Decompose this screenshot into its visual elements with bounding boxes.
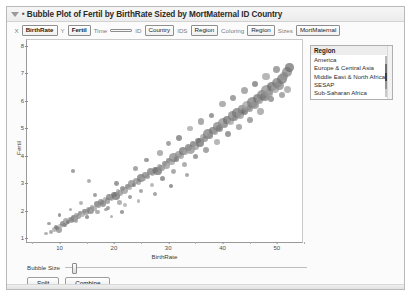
bubble-point[interactable]	[87, 179, 91, 183]
bubble-point[interactable]	[63, 223, 67, 227]
x-minor-tick	[195, 242, 196, 244]
bubble-point[interactable]	[182, 162, 188, 168]
bubble-point[interactable]	[47, 222, 51, 226]
y-tick-label: 8	[21, 43, 27, 49]
role-value-id[interactable]: Country	[145, 25, 175, 36]
bubble-point[interactable]	[262, 73, 270, 81]
legend-item[interactable]: Middle East & North Africa	[314, 73, 389, 81]
legend-panel[interactable]: Region AmericaEurope & Central AsiaMiddl…	[310, 45, 393, 100]
bubble-point[interactable]	[150, 183, 154, 187]
bubble-point[interactable]	[171, 169, 176, 174]
role-value-y[interactable]: Fertil	[68, 25, 91, 36]
x-tick-label: 10	[56, 242, 63, 251]
bubble-point[interactable]	[257, 108, 264, 115]
role-value-time[interactable]	[110, 29, 132, 32]
bubble-point[interactable]	[209, 113, 215, 119]
bubble-point[interactable]	[110, 215, 113, 218]
bubble-point[interactable]	[128, 195, 132, 199]
role-tag-coloring: Coloring	[221, 27, 244, 34]
bubble-point[interactable]	[166, 141, 171, 146]
role-tag-x: X	[15, 27, 19, 34]
legend-item[interactable]: SESAP	[314, 81, 389, 89]
bubble-point[interactable]	[133, 166, 138, 171]
scatter-plot-area[interactable]: 12345678 1020304050	[26, 39, 303, 243]
legend-item[interactable]: Europe & Central Asia	[314, 64, 389, 72]
bubble-size-control[interactable]: Bubble Size	[27, 264, 307, 271]
role-value-coloring[interactable]: Region	[247, 25, 275, 36]
bubble-point[interactable]	[214, 139, 220, 145]
legend-scrollbar[interactable]	[387, 46, 392, 99]
bubble-point[interactable]	[74, 219, 78, 223]
bubble-point[interactable]	[95, 210, 99, 214]
bubble-point[interactable]	[285, 63, 293, 71]
x-minor-tick	[87, 242, 88, 244]
bubble-plot-window: ▪ Bubble Plot of Fertil by BirthRate Siz…	[6, 6, 405, 290]
bubble-point[interactable]	[279, 92, 285, 98]
x-tick-label: 50	[273, 242, 280, 251]
role-value-x[interactable]: BirthRate	[22, 25, 58, 36]
bubble-point[interactable]	[225, 131, 231, 137]
bubble-point[interactable]	[193, 154, 198, 159]
bubble-size-slider-thumb[interactable]	[72, 263, 77, 274]
x-tick-label: 40	[219, 242, 226, 251]
bubble-point[interactable]	[79, 201, 83, 205]
x-axis-label: BirthRate	[26, 253, 303, 260]
y-tick-label: 5	[21, 125, 27, 131]
bubble-size-slider[interactable]	[65, 267, 307, 268]
role-tag-ids: IDS	[177, 27, 187, 34]
bubble-point[interactable]	[69, 208, 73, 212]
role-value-sizes[interactable]: MortMaternal	[296, 25, 340, 36]
bubble-point[interactable]	[137, 199, 141, 203]
bubble-point[interactable]	[203, 147, 209, 153]
bubble-point[interactable]	[230, 95, 236, 101]
bubble-point[interactable]	[252, 81, 258, 87]
bubble-point[interactable]	[58, 213, 61, 216]
y-tick-label: 4	[21, 153, 27, 159]
bubble-point[interactable]	[114, 181, 119, 186]
bubble-point[interactable]	[219, 101, 226, 108]
bubble-point[interactable]	[198, 118, 204, 124]
bubble-point[interactable]	[157, 150, 163, 156]
x-minor-tick	[141, 242, 142, 244]
bubble-point[interactable]	[55, 226, 59, 230]
y-tick-label: 6	[21, 98, 27, 104]
bubble-point[interactable]	[236, 124, 242, 130]
page-title: Bubble Plot of Fertil by BirthRate Sized…	[27, 10, 282, 19]
bubble-point[interactable]	[241, 87, 248, 94]
bubble-point[interactable]	[185, 173, 189, 177]
bubble-point[interactable]	[176, 135, 182, 141]
bubble-point[interactable]	[284, 86, 291, 93]
bubble-point[interactable]	[117, 200, 121, 204]
bubble-point[interactable]	[44, 232, 47, 235]
role-tag-id: ID	[135, 27, 141, 34]
bubble-point[interactable]	[104, 208, 108, 212]
bubble-point[interactable]	[160, 176, 165, 181]
window-titlebar: ▪ Bubble Plot of Fertil by BirthRate Siz…	[7, 7, 404, 22]
bubble-point[interactable]	[268, 96, 274, 102]
legend-item[interactable]: Sub-Saharan Africa	[314, 89, 389, 97]
title-bullet-icon: ▪	[22, 10, 25, 18]
bubble-point[interactable]	[169, 184, 173, 188]
bubble-point[interactable]	[187, 126, 192, 131]
bubble-point[interactable]	[153, 192, 157, 196]
role-value-ids[interactable]: Region	[191, 25, 219, 36]
y-tick-label: 1	[21, 235, 27, 241]
bubble-point[interactable]	[144, 158, 148, 162]
x-minor-tick	[250, 242, 251, 244]
bubble-point[interactable]	[120, 210, 124, 214]
bubble-point[interactable]	[273, 66, 280, 73]
x-minor-tick	[304, 242, 305, 244]
bubble-point[interactable]	[247, 117, 253, 123]
bubble-canvas	[27, 40, 302, 242]
x-tick-label: 30	[165, 242, 172, 251]
bubble-point[interactable]	[85, 215, 89, 219]
triangle-down-icon[interactable]	[11, 12, 19, 17]
window-bottom-edge	[7, 284, 404, 289]
y-tick-label: 2	[21, 208, 27, 214]
bubble-point[interactable]	[139, 189, 144, 194]
legend-item[interactable]: America	[314, 56, 389, 64]
bubble-point[interactable]	[93, 193, 97, 197]
bubble-point[interactable]	[71, 169, 75, 173]
y-tick-label: 7	[21, 70, 27, 76]
bubble-point[interactable]	[123, 203, 127, 207]
